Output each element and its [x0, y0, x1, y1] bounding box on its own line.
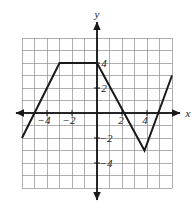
- figure-background: [0, 0, 196, 212]
- y-tick-label-neg2: −2: [100, 132, 113, 144]
- x-tick-label-4: 4: [142, 114, 148, 126]
- y-tick-label-neg4: −4: [100, 157, 113, 169]
- y-axis-label: y: [94, 8, 100, 20]
- x-tick-label-neg4: −4: [38, 114, 51, 126]
- x-axis-label: x: [185, 107, 191, 119]
- y-tick-label-2: 2: [101, 82, 107, 94]
- graph-figure: −4 −2 2 4 4 2 −2 −4 x y: [0, 0, 196, 212]
- x-tick-label-2: 2: [118, 114, 124, 126]
- x-tick-label-neg2: −2: [63, 114, 76, 126]
- coordinate-plane-svg: −4 −2 2 4 4 2 −2 −4 x y: [0, 0, 196, 212]
- y-tick-label-4: 4: [101, 57, 107, 69]
